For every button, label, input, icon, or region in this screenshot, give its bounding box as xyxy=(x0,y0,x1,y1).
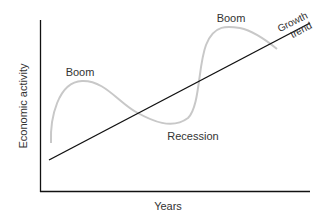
x-axis-label: Years xyxy=(154,200,182,212)
business-cycle-curve xyxy=(51,27,277,143)
boom-label-first: Boom xyxy=(66,66,95,78)
boom-label-second: Boom xyxy=(217,12,246,24)
recession-label: Recession xyxy=(167,130,218,142)
business-cycle-diagram: Economic activity Years Boom Boom Recess… xyxy=(0,0,325,217)
y-axis-label: Economic activity xyxy=(17,63,29,148)
